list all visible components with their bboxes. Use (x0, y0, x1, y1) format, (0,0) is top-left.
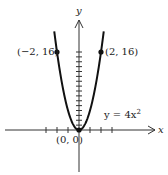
y-axis-label: y (75, 5, 82, 16)
point-label-left: (−2, 16) (17, 46, 59, 57)
point-label-right: (2, 16) (105, 46, 138, 57)
axes (5, 20, 155, 172)
equation-exponent: 2 (136, 108, 140, 116)
point-marker (76, 127, 81, 132)
parabola-chart: y x (−2, 16) (2, 16) (0, 0) y = 4x2 (0, 0, 168, 175)
equation-text: y = 4x (103, 109, 137, 120)
equation-label: y = 4x2 (103, 108, 141, 120)
origin-label: (0, 0) (56, 134, 83, 145)
x-axis-label: x (158, 124, 164, 135)
point-marker (98, 49, 103, 54)
